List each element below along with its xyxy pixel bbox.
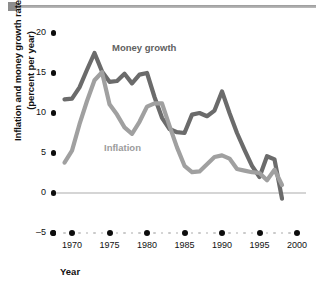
series-label-money-growth: Money growth [112, 42, 176, 53]
chart-figure: Inflation and money growth rate (percent… [0, 0, 318, 286]
series-label-inflation: Inflation [104, 142, 141, 153]
